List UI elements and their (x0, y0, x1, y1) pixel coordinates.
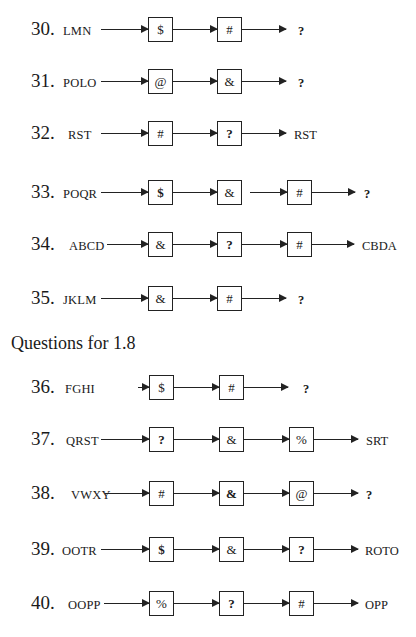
arrow-icon (244, 603, 289, 604)
operation-box: & (219, 537, 244, 562)
question-39: 39. OOTR $ & ? ROTO (0, 537, 416, 563)
operation-box: & (217, 180, 242, 205)
question-number: 38. (31, 480, 55, 506)
arrow-icon (173, 298, 217, 299)
arrow-icon (242, 29, 286, 30)
arrow-icon (173, 81, 217, 82)
operation-box: # (149, 481, 174, 506)
input-word: JKLM (63, 287, 96, 313)
question-number: 40. (31, 590, 55, 616)
input-word: OOTR (62, 538, 97, 564)
arrow-icon (242, 133, 286, 134)
output-word: SRT (366, 428, 388, 454)
operation-box: @ (148, 69, 173, 94)
question-31: 31. POLO @ & ? (0, 69, 416, 95)
output-word: ? (298, 287, 304, 313)
input-word: POLO (63, 70, 96, 96)
operation-box: ? (289, 537, 314, 562)
operation-box: ? (149, 427, 174, 452)
input-word: POQR (63, 181, 97, 207)
arrow-icon (312, 192, 355, 193)
operation-box: # (287, 232, 312, 257)
question-number: 35. (31, 285, 55, 311)
operation-box: # (289, 591, 314, 616)
arrow-icon (314, 439, 358, 440)
operation-box: & (217, 69, 242, 94)
operation-box: & (219, 427, 244, 452)
input-word: QRST (66, 428, 99, 454)
arrow-icon (173, 244, 217, 245)
operation-box: # (219, 375, 244, 400)
output-word: ? (364, 181, 370, 207)
input-word: OOPP (68, 592, 101, 618)
output-word: RST (294, 122, 317, 148)
operation-box: & (219, 481, 244, 506)
question-35: 35. JKLM & # ? (0, 286, 416, 312)
output-word: ? (298, 18, 304, 44)
operation-box: $ (149, 537, 174, 562)
operation-box: # (287, 180, 312, 205)
arrow-icon (244, 493, 289, 494)
operation-box: $ (148, 17, 173, 42)
input-word: VWXY (71, 482, 111, 508)
operation-box: $ (149, 375, 174, 400)
operation-box: @ (289, 481, 314, 506)
question-33: 33. POQR $ & # ? (0, 180, 416, 206)
input-word: LMN (63, 18, 91, 44)
arrow-icon (101, 29, 148, 30)
question-38: 38. VWXY # & @ ? (0, 481, 416, 507)
operation-box: $ (148, 180, 173, 205)
operation-box: & (148, 232, 173, 257)
arrow-icon (101, 549, 149, 550)
arrow-icon (101, 439, 149, 440)
arrow-icon (174, 439, 219, 440)
arrow-icon (104, 603, 149, 604)
arrow-icon (174, 549, 219, 550)
arrow-icon (242, 298, 286, 299)
arrow-icon (138, 387, 149, 388)
operation-box: % (149, 591, 174, 616)
arrow-icon (173, 29, 217, 30)
operation-box: # (217, 17, 242, 42)
arrow-icon (105, 493, 149, 494)
arrow-icon (101, 81, 148, 82)
output-word: CBDA (362, 233, 397, 259)
question-number: 32. (31, 120, 55, 146)
operation-box: # (217, 286, 242, 311)
question-37: 37. QRST ? & % SRT (0, 427, 416, 453)
operation-box: % (289, 427, 314, 452)
operation-box: # (148, 121, 173, 146)
question-number: 33. (31, 179, 55, 205)
arrow-icon (174, 387, 219, 388)
question-36: 36. FGHI $ # ? (0, 375, 416, 401)
question-number: 34. (31, 231, 55, 257)
arrow-icon (174, 493, 219, 494)
question-number: 31. (31, 68, 55, 94)
question-number: 30. (31, 16, 55, 42)
output-word: ? (298, 70, 304, 96)
question-number: 36. (31, 374, 55, 400)
output-word: ? (366, 482, 372, 508)
arrow-icon (244, 439, 289, 440)
arrow-icon (314, 493, 358, 494)
arrow-icon (242, 81, 286, 82)
operation-box: ? (217, 232, 242, 257)
arrow-icon (101, 133, 148, 134)
arrow-icon (244, 549, 289, 550)
arrow-icon (174, 603, 219, 604)
arrow-icon (101, 192, 148, 193)
operation-box: & (148, 286, 173, 311)
output-word: ROTO (365, 538, 399, 564)
output-word: ? (303, 376, 309, 402)
question-number: 39. (31, 536, 55, 562)
arrow-icon (107, 244, 148, 245)
operation-box: ? (219, 591, 244, 616)
input-word: RST (68, 122, 92, 148)
output-word: OPP (365, 592, 388, 618)
operation-box: ? (217, 121, 242, 146)
question-number: 37. (31, 426, 55, 452)
question-34: 34. ABCD & ? # CBDA (0, 232, 416, 258)
arrow-icon (242, 244, 287, 245)
arrow-icon (173, 133, 217, 134)
arrow-icon (312, 244, 354, 245)
